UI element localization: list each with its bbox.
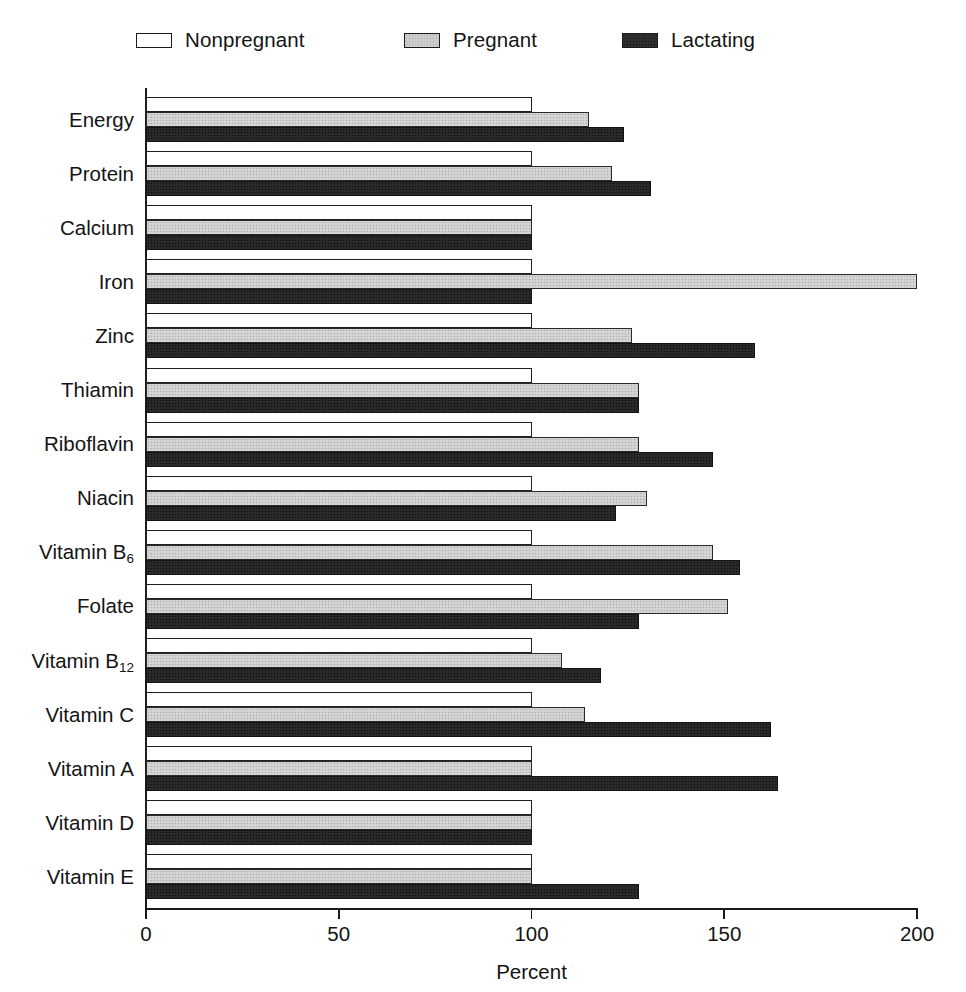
- chart-legend: NonpregnantPregnantLactating: [0, 28, 966, 68]
- bar-pregnant: [146, 815, 532, 830]
- bar-nonpregnant: [146, 259, 532, 274]
- legend-swatch-nonpregnant: [136, 33, 172, 48]
- legend-swatch-pregnant: [404, 33, 440, 48]
- category-label: Riboflavin: [44, 434, 134, 455]
- bar-nonpregnant: [146, 97, 532, 112]
- bar-lactating: [146, 181, 651, 196]
- x-axis-title: Percent: [146, 960, 917, 984]
- bar-pregnant: [146, 383, 639, 398]
- category-label: Zinc: [95, 326, 134, 347]
- bar-pregnant: [146, 328, 632, 343]
- bar-nonpregnant: [146, 584, 532, 599]
- x-tick: [145, 908, 147, 919]
- bar-nonpregnant: [146, 854, 532, 869]
- bar-nonpregnant: [146, 746, 532, 761]
- legend-item-pregnant: Pregnant: [404, 28, 537, 52]
- bar-nonpregnant: [146, 313, 532, 328]
- bar-lactating: [146, 398, 639, 413]
- bar-nonpregnant: [146, 638, 532, 653]
- legend-label: Nonpregnant: [185, 28, 305, 52]
- bar-lactating: [146, 668, 601, 683]
- category-label: Vitamin A: [48, 759, 134, 780]
- bar-nonpregnant: [146, 476, 532, 491]
- bar-chart: NonpregnantPregnantLactating EnergyProte…: [0, 0, 966, 992]
- bar-lactating: [146, 452, 713, 467]
- bar-nonpregnant: [146, 692, 532, 707]
- plot-area: EnergyProteinCalciumIronZincThiaminRibof…: [146, 88, 917, 908]
- bar-pregnant: [146, 491, 647, 506]
- bar-pregnant: [146, 599, 728, 614]
- bar-lactating: [146, 127, 624, 142]
- bar-pregnant: [146, 274, 917, 289]
- legend-label: Lactating: [671, 28, 755, 52]
- category-label: Folate: [77, 596, 134, 617]
- bar-pregnant: [146, 437, 639, 452]
- bar-pregnant: [146, 707, 585, 722]
- bar-lactating: [146, 343, 755, 358]
- bar-pregnant: [146, 761, 532, 776]
- x-tick: [723, 908, 725, 919]
- bar-nonpregnant: [146, 530, 532, 545]
- category-label: Thiamin: [61, 380, 134, 401]
- x-tick: [531, 908, 533, 919]
- bar-lactating: [146, 560, 740, 575]
- category-label: Calcium: [60, 218, 134, 239]
- legend-label: Pregnant: [453, 28, 537, 52]
- x-tick-label: 0: [140, 922, 151, 946]
- bar-nonpregnant: [146, 422, 532, 437]
- x-tick-label: 50: [327, 922, 350, 946]
- category-label: Protein: [69, 164, 134, 185]
- bar-nonpregnant: [146, 151, 532, 166]
- bar-pregnant: [146, 220, 532, 235]
- bar-pregnant: [146, 545, 713, 560]
- bar-nonpregnant: [146, 368, 532, 383]
- bar-lactating: [146, 289, 532, 304]
- bar-pregnant: [146, 112, 589, 127]
- bar-lactating: [146, 506, 616, 521]
- legend-item-lactating: Lactating: [622, 28, 755, 52]
- bar-lactating: [146, 776, 778, 791]
- bar-pregnant: [146, 166, 612, 181]
- bar-pregnant: [146, 869, 532, 884]
- bar-lactating: [146, 830, 532, 845]
- category-label: Vitamin B6: [39, 542, 134, 563]
- x-tick: [916, 908, 918, 919]
- x-tick-label: 150: [707, 922, 741, 946]
- bar-lactating: [146, 722, 771, 737]
- legend-swatch-lactating: [622, 33, 658, 48]
- legend-item-nonpregnant: Nonpregnant: [136, 28, 305, 52]
- category-label: Vitamin C: [46, 705, 135, 726]
- bar-lactating: [146, 884, 639, 899]
- bar-lactating: [146, 235, 532, 250]
- category-label: Iron: [99, 272, 134, 293]
- category-label: Niacin: [77, 488, 134, 509]
- category-label: Energy: [69, 110, 134, 131]
- category-label: Vitamin D: [46, 813, 135, 834]
- x-tick-label: 200: [900, 922, 934, 946]
- bar-pregnant: [146, 653, 562, 668]
- category-label: Vitamin E: [47, 867, 134, 888]
- category-label: Vitamin B12: [32, 651, 134, 672]
- bar-nonpregnant: [146, 800, 532, 815]
- bar-lactating: [146, 614, 639, 629]
- x-tick: [338, 908, 340, 919]
- x-tick-label: 100: [514, 922, 548, 946]
- bar-nonpregnant: [146, 205, 532, 220]
